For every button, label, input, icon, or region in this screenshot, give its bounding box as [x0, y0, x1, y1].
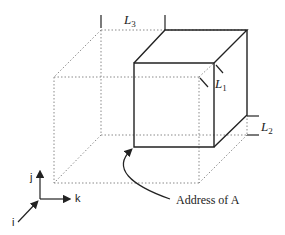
outer-array-box: [54, 30, 247, 183]
address-arrow: [123, 150, 170, 199]
solid-cube: [134, 30, 247, 147]
label-l2: L2: [261, 120, 273, 133]
address-label: Address of A: [176, 194, 239, 206]
axis-arrows: [18, 172, 69, 222]
label-l3: L3: [124, 13, 136, 26]
axis-j-label: j: [30, 172, 32, 183]
l2-dimension-ticks: [247, 116, 259, 135]
axis-i-label: i: [12, 217, 14, 228]
axis-k-label: k: [75, 193, 81, 204]
label-l1: L1: [215, 77, 227, 90]
diagram-canvas: L3 L1 L2 Address of A j k i: [0, 0, 285, 235]
cube-diagram: [0, 0, 285, 235]
